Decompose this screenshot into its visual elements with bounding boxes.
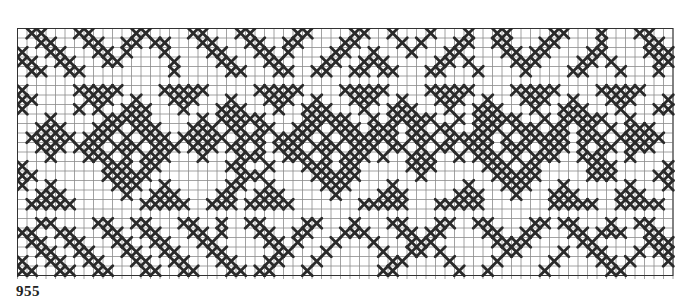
cross-stitch-icon [17, 266, 27, 276]
cross-stitch-icon [473, 199, 483, 209]
cross-stitch-icon [274, 66, 284, 76]
cross-stitch-icon [198, 152, 208, 162]
cross-stitch-icon [435, 66, 445, 76]
cross-stitch-icon [454, 152, 464, 162]
cross-stitch-icon [540, 266, 550, 276]
cross-stitch-icon [578, 66, 588, 76]
cross-stitch-icon [511, 247, 521, 257]
cross-stitch-icon [302, 266, 312, 276]
cross-stitch-icon [445, 199, 455, 209]
cross-stitch-icon [179, 199, 189, 209]
cross-stitch-icon [587, 171, 597, 181]
cross-stitch-icon [331, 190, 341, 200]
cross-stitch-icon [236, 66, 246, 76]
cross-stitch-icon [416, 247, 426, 257]
cross-stitch-icon [312, 66, 322, 76]
cross-stitch-icon [255, 199, 265, 209]
cross-stitch-icon [388, 66, 398, 76]
cross-stitch-icon [359, 95, 369, 105]
cross-stitch-icon [616, 199, 626, 209]
cross-stitch-icon [264, 266, 274, 276]
cross-stitch-icon [321, 66, 331, 76]
cross-stitch-icon [511, 142, 521, 152]
cross-stitch-icon [644, 142, 654, 152]
cross-stitch-icon [93, 266, 103, 276]
cross-stitch-icon [454, 266, 464, 276]
cross-stitch-icon [369, 199, 379, 209]
cross-stitch-icon [578, 133, 588, 143]
cross-stitch-icon [654, 66, 664, 76]
cross-stitch-icon [454, 199, 464, 209]
cross-stitch-icon [654, 104, 664, 114]
cross-stitch-icon [169, 57, 179, 67]
cross-stitch-icon [169, 199, 179, 209]
cross-stitch-icon [578, 199, 588, 209]
cross-stitch-icon [17, 180, 27, 190]
cross-stitch-icon [55, 266, 65, 276]
cross-stitch-icon [55, 199, 65, 209]
stitch-grid [17, 28, 675, 281]
cross-stitch-icon [141, 266, 151, 276]
cross-stitch-icon [283, 199, 293, 209]
cross-stitch-icon [198, 142, 208, 152]
cross-stitch-icon [169, 66, 179, 76]
cross-stitch-icon [65, 266, 75, 276]
cross-stitch-icon [625, 152, 635, 162]
cross-stitch-icon [616, 66, 626, 76]
cross-stitch-icon [435, 199, 445, 209]
cross-stitch-icon [112, 57, 122, 67]
cross-stitch-icon [122, 180, 132, 190]
cross-stitch-icon [150, 199, 160, 209]
cross-stitch-icon [27, 199, 37, 209]
cross-stitch-icon [616, 266, 626, 276]
cross-stitch-icon [416, 161, 426, 171]
cross-stitch-icon [207, 199, 217, 209]
cross-stitch-icon [179, 266, 189, 276]
cross-stitch-icon [103, 57, 113, 67]
cross-stitch-icon [160, 38, 170, 48]
cross-stitch-icon [483, 266, 493, 276]
cross-stitch-icon [150, 266, 160, 276]
cross-stitch-icon [46, 199, 56, 209]
cross-stitch-icon [378, 66, 388, 76]
cross-stitch-icon [473, 66, 483, 76]
cross-stitch-icon [283, 152, 293, 162]
cross-stitch-icon [378, 199, 388, 209]
cross-stitch-icon [644, 199, 654, 209]
cross-stitch-icon [179, 95, 189, 105]
cross-stitch-icon [36, 199, 46, 209]
cross-stitch-icon [93, 95, 103, 105]
cross-stitch-icon [663, 256, 673, 266]
cross-stitch-icon [654, 57, 664, 67]
cross-stitch-icon [255, 133, 265, 143]
cross-stitch-icon [27, 266, 37, 276]
cross-stitch-icon [226, 266, 236, 276]
cross-stitch-icon [426, 66, 436, 76]
cross-stitch-icon [635, 199, 645, 209]
cross-stitch-icon [388, 199, 398, 209]
cross-stitch-icon [388, 266, 398, 276]
cross-stitch-icon [407, 47, 417, 57]
cross-stitch-chart [17, 28, 675, 281]
cross-stitch-icon [359, 66, 369, 76]
cross-stitch-icon [663, 104, 673, 114]
cross-stitch-icon [568, 199, 578, 209]
cross-stitch-icon [226, 66, 236, 76]
cross-stitch-icon [84, 152, 94, 162]
cross-stitch-icon [616, 95, 626, 105]
cross-stitch-icon [416, 133, 426, 143]
cross-stitch-icon [530, 95, 540, 105]
cross-stitch-icon [625, 199, 635, 209]
cross-stitch-icon [46, 142, 56, 152]
cross-stitch-icon [445, 95, 455, 105]
cross-stitch-icon [293, 228, 303, 238]
cross-stitch-icon [606, 171, 616, 181]
cross-stitch-icon [122, 142, 132, 152]
cross-stitch-icon [226, 199, 236, 209]
cross-stitch-icon [264, 199, 274, 209]
cross-stitch-icon [217, 199, 227, 209]
cross-stitch-icon [283, 66, 293, 76]
cross-stitch-icon [587, 199, 597, 209]
cross-stitch-icon [378, 152, 388, 162]
cross-stitch-icon [521, 66, 531, 76]
